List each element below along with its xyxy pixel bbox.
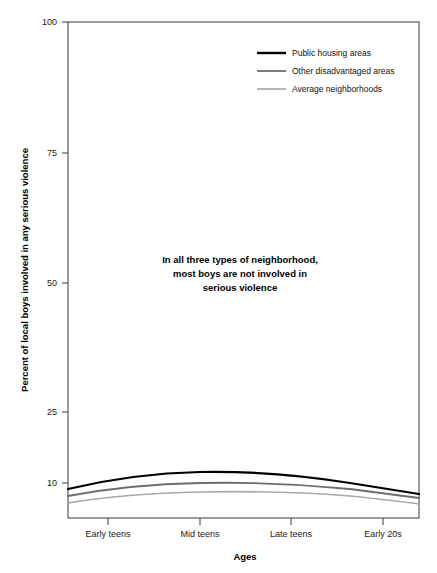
annotation-line-1: In all three types of neighborhood, bbox=[162, 254, 318, 265]
y-axis-title: Percent of local boys involved in any se… bbox=[19, 148, 30, 392]
x-tick-label-late-teens: Late teens bbox=[270, 529, 313, 539]
x-tick-label-mid-teens: Mid teens bbox=[180, 529, 220, 539]
legend-label-other-disadvantaged-areas: Other disadvantaged areas bbox=[292, 66, 395, 76]
y-tick-label-50: 50 bbox=[47, 278, 57, 288]
y-tick-label-100: 100 bbox=[42, 17, 57, 27]
annotation-line-3: serious violence bbox=[203, 282, 277, 293]
legend-label-public-housing-areas: Public housing areas bbox=[292, 48, 371, 58]
y-tick-label-25: 25 bbox=[47, 407, 57, 417]
violence-line-chart: 100 75 50 25 10 Early teens Mid teens La… bbox=[0, 0, 437, 573]
legend-label-average-neighborhoods: Average neighborhoods bbox=[292, 84, 382, 94]
x-tick-label-early-20s: Early 20s bbox=[364, 529, 402, 539]
x-tick-label-early-teens: Early teens bbox=[85, 529, 131, 539]
annotation-line-2: most boys are not involved in bbox=[173, 268, 307, 279]
y-tick-label-75: 75 bbox=[47, 148, 57, 158]
x-axis-title: Ages bbox=[233, 551, 256, 562]
y-tick-label-10: 10 bbox=[47, 478, 57, 488]
chart-figure: 100 75 50 25 10 Early teens Mid teens La… bbox=[0, 0, 437, 573]
